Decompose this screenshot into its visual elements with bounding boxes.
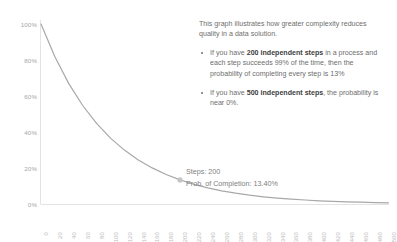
x-tick-label: 40 [71,232,77,239]
x-tick-label: 120 [127,232,133,242]
x-tick-label: 60 [85,232,91,239]
x-tick-label: 280 [238,232,244,242]
y-tick-label: 0% [3,201,37,208]
annotation-panel: This graph illustrates how greater compl… [199,19,379,109]
bullet-text-pre: If you have [210,89,247,97]
x-tick-label: 80 [99,232,105,239]
x-axis-tick-labels: 0204060801001201401601802002202402602803… [39,208,391,238]
x-tick-label: 220 [196,232,202,242]
x-tick-label: 400 [321,232,327,242]
data-point-label-steps: Steps: 200 [186,166,278,178]
x-tick-label: 380 [307,232,313,242]
x-tick-label: 240 [210,232,216,242]
y-tick-label: 40% [3,129,37,136]
x-tick-label: 140 [141,232,147,242]
x-tick-label: 100 [113,232,119,242]
annotation-intro-text: This graph illustrates how greater compl… [199,19,379,40]
y-tick-label: 20% [3,165,37,172]
annotation-bullet-item: If you have 500 independent steps, the p… [199,88,379,109]
y-tick-label: 100% [3,21,37,28]
y-tick-label: 80% [3,57,37,64]
x-tick-label: 420 [335,232,341,242]
data-point-marker [177,177,182,182]
x-tick-label: 260 [224,232,230,242]
x-tick-label: 500 [391,232,397,242]
bullet-text-bold: 500 independent steps [247,89,323,97]
x-tick-label: 440 [349,232,355,242]
x-tick-label: 320 [266,232,272,242]
data-point-label-probability: Prob. of Completion: 13.40% [186,178,278,190]
bullet-text-bold: 200 independent steps [247,49,323,57]
x-tick-label: 460 [363,232,369,242]
data-point-label: Steps: 200 Prob. of Completion: 13.40% [186,166,278,189]
x-tick-label: 200 [182,232,188,242]
x-tick-label: 20 [57,232,63,239]
bullet-text-pre: If you have [210,49,247,57]
y-tick-label: 60% [3,93,37,100]
x-tick-label: 0 [43,232,49,235]
y-axis-tick-labels: 100% 80% 60% 40% 20% 0% [0,0,37,238]
x-tick-label: 340 [280,232,286,242]
x-tick-label: 180 [168,232,174,242]
x-tick-label: 480 [377,232,383,242]
annotation-bullet-list: If you have 200 independent steps in a p… [199,48,379,109]
annotation-bullet-item: If you have 200 independent steps in a p… [199,48,379,79]
x-tick-label: 360 [293,232,299,242]
x-tick-label: 160 [154,232,160,242]
x-tick-label: 300 [252,232,258,242]
